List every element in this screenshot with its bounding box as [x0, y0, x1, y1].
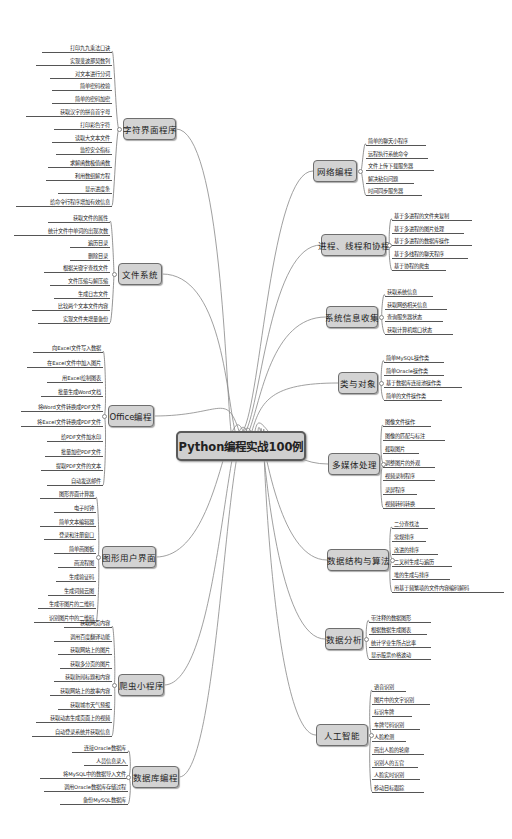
- subtopic-item[interactable]: 录屏程序: [383, 486, 417, 495]
- subtopic-item[interactable]: 图像文件操作: [383, 418, 431, 427]
- subtopic-item[interactable]: 移动目标跟踪: [372, 784, 424, 793]
- branch-class-object[interactable]: 类与对象: [338, 372, 378, 394]
- branch-file-system[interactable]: 文件系统: [118, 263, 162, 285]
- subtopic-item[interactable]: 简单密码校验: [52, 82, 112, 91]
- subtopic-item[interactable]: 统计文件中单词的出现次数: [14, 227, 110, 236]
- collapse-toggle[interactable]: [369, 733, 374, 738]
- subtopic-item[interactable]: 比较两个文本文件内容: [32, 302, 110, 311]
- collapse-toggle[interactable]: [96, 555, 101, 560]
- subtopic-item[interactable]: 打印彩色字符: [54, 121, 112, 130]
- branch-gui[interactable]: 图形用户界面: [102, 546, 156, 568]
- subtopic-item[interactable]: 批量加密PDF文件: [45, 448, 103, 457]
- subtopic-item[interactable]: 遍历目录: [70, 239, 110, 248]
- subtopic-item[interactable]: 图形界面计算器: [40, 490, 96, 499]
- subtopic-item[interactable]: 自动发送邮件: [47, 477, 103, 486]
- subtopic-item[interactable]: 基于多线程的聊天程序: [392, 250, 468, 259]
- subtopic-item[interactable]: 求解函数极值函数: [48, 159, 112, 168]
- subtopic-item[interactable]: 图片中的文字识别: [372, 696, 430, 705]
- central-topic[interactable]: Python编程实战100例: [176, 431, 306, 461]
- subtopic-item[interactable]: 获取计算机端口状态: [385, 326, 453, 335]
- collapse-toggle[interactable]: [112, 272, 117, 277]
- subtopic-item[interactable]: 利用数组解方程: [46, 172, 112, 181]
- subtopic-item[interactable]: 解决粘包问题: [366, 175, 414, 184]
- subtopic-item[interactable]: 时间同步服务器: [366, 187, 422, 196]
- subtopic-item[interactable]: 调用Oracle数据库存储过程: [44, 783, 128, 792]
- collapse-toggle[interactable]: [117, 127, 122, 132]
- subtopic-item[interactable]: 画流程图: [58, 559, 96, 568]
- branch-console-programs[interactable]: 字符界面程序: [123, 118, 176, 140]
- subtopic-item[interactable]: 简单画图板: [54, 545, 96, 554]
- collapse-toggle[interactable]: [364, 637, 369, 642]
- subtopic-item[interactable]: 登录和注册窗口: [44, 531, 96, 540]
- subtopic-item[interactable]: 文件上传下载服务器: [366, 162, 434, 171]
- subtopic-item[interactable]: 将Excel文件转换成PDF文件: [21, 418, 103, 427]
- subtopic-item[interactable]: 基于多进程的数据库操作: [392, 237, 472, 246]
- subtopic-item[interactable]: 车牌号码识别: [372, 721, 420, 730]
- subtopic-item[interactable]: 生成词频云图: [48, 587, 96, 596]
- branch-data-analysis[interactable]: 数据分析: [325, 628, 363, 650]
- subtopic-item[interactable]: 堆的生成与排序: [392, 571, 450, 580]
- subtopic-item[interactable]: 将Word文件转换成PDF文件: [21, 403, 103, 412]
- collapse-toggle[interactable]: [126, 775, 131, 780]
- subtopic-item[interactable]: 识别人的五官: [372, 759, 418, 768]
- subtopic-item[interactable]: 获取新闻标题和内容: [54, 673, 112, 682]
- subtopic-item[interactable]: 给命令行程序增加有效信息: [16, 198, 112, 207]
- collapse-toggle[interactable]: [379, 315, 384, 320]
- subtopic-item[interactable]: 带注释的数据图形: [369, 614, 431, 623]
- subtopic-item[interactable]: 向Excel文件写入数据: [33, 344, 103, 353]
- subtopic-item[interactable]: 获取网站上的图片: [58, 646, 112, 655]
- subtopic-item[interactable]: 画出人脸的轮廓: [372, 746, 424, 755]
- branch-data-structures[interactable]: 数据结构与算法: [327, 549, 389, 571]
- subtopic-item[interactable]: 获取城市天气预报: [58, 701, 112, 710]
- subtopic-item[interactable]: 生成带图片的二维码: [38, 600, 96, 609]
- subtopic-item[interactable]: 生成日志文件: [54, 290, 110, 299]
- subtopic-item[interactable]: 读取大文本文件: [52, 134, 112, 143]
- collapse-toggle[interactable]: [390, 558, 395, 563]
- subtopic-item[interactable]: 对文本进行分词: [50, 70, 112, 79]
- subtopic-item[interactable]: 获取系统信息: [385, 288, 433, 297]
- subtopic-item[interactable]: 用Excel绘制图表: [47, 374, 103, 383]
- branch-system-info[interactable]: 系统信息收集: [326, 306, 378, 328]
- subtopic-item[interactable]: 简单Oracle操作类: [384, 367, 444, 376]
- subtopic-item[interactable]: 根据数据生成图表: [369, 626, 427, 635]
- subtopic-item[interactable]: 实现斐波那契数列: [36, 57, 112, 66]
- subtopic-item[interactable]: 基于多进程的文件夹复制: [392, 212, 472, 221]
- subtopic-item[interactable]: 电子时钟: [54, 504, 96, 513]
- subtopic-item[interactable]: 获取网站上的故事内容: [50, 687, 112, 696]
- subtopic-item[interactable]: 调整图片的外观: [383, 459, 435, 468]
- collapse-toggle[interactable]: [379, 381, 384, 386]
- subtopic-item[interactable]: 语音识别: [372, 683, 406, 692]
- branch-office-programming[interactable]: Office编程: [108, 405, 154, 427]
- branch-ai[interactable]: 人工智能: [316, 724, 368, 746]
- subtopic-item[interactable]: 远程执行系统命令: [366, 150, 428, 159]
- subtopic-item[interactable]: 调用百度翻译功能: [54, 633, 112, 642]
- subtopic-item[interactable]: 批量生成Word文档: [41, 388, 103, 397]
- collapse-toggle[interactable]: [102, 414, 107, 419]
- branch-multimedia[interactable]: 多媒体处理: [328, 453, 380, 475]
- subtopic-item[interactable]: 获取文件的属性: [48, 214, 110, 223]
- subtopic-item[interactable]: 将MySQL中的数据导入文件: [40, 770, 128, 779]
- subtopic-item[interactable]: 备份MySQL数据库: [60, 796, 128, 805]
- subtopic-item[interactable]: 获取动态生成页面上的视频: [36, 714, 112, 723]
- branch-crawler[interactable]: 爬虫小程序: [118, 674, 164, 696]
- subtopic-item[interactable]: 获取网页内容: [64, 619, 112, 628]
- subtopic-item[interactable]: 视频转码转换: [383, 500, 435, 509]
- subtopic-item[interactable]: 人脸实时识别: [372, 771, 420, 780]
- subtopic-item[interactable]: 在Excel文件中加入图片: [27, 359, 103, 368]
- subtopic-item[interactable]: 二叉树生成与遍历: [392, 558, 452, 567]
- subtopic-item[interactable]: 文件压缩与解压缩: [50, 277, 110, 286]
- subtopic-item[interactable]: 显示进度条: [58, 185, 112, 194]
- subtopic-item[interactable]: 常规排序: [392, 533, 426, 542]
- subtopic-item[interactable]: 实现文件夹增量备份: [38, 315, 110, 324]
- subtopic-item[interactable]: 基于数据库连接池操作类: [384, 379, 462, 388]
- subtopic-item[interactable]: 统计学业生所占比率: [369, 639, 431, 648]
- collapse-toggle[interactable]: [381, 462, 386, 467]
- branch-network[interactable]: 网络编程: [313, 160, 357, 182]
- subtopic-item[interactable]: 监控安全指标: [56, 146, 112, 155]
- subtopic-item[interactable]: 自动登录系统并获取信息: [32, 728, 112, 737]
- subtopic-item[interactable]: 给PDF文件加水印: [47, 433, 103, 442]
- subtopic-item[interactable]: 提取PDF文件的文本: [41, 462, 103, 471]
- subtopic-item[interactable]: 连接Oracle数据库: [72, 744, 128, 753]
- subtopic-item[interactable]: 获取网络相关信息: [385, 301, 447, 310]
- branch-process-thread[interactable]: 进程、线程和协程: [321, 234, 386, 256]
